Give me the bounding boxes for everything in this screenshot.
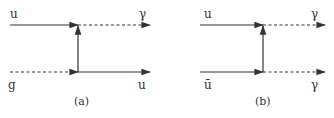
label-bottom-right-a: u [138, 79, 146, 91]
label-top-right-b: γ [311, 8, 318, 20]
diagram-b [200, 25, 325, 72]
caption-b: (b) [255, 96, 271, 107]
label-bottom-left-b: ū [204, 79, 212, 91]
label-top-right-a: γ [139, 8, 146, 20]
label-bottom-right-b: γ [311, 79, 318, 91]
label-top-left-b: u [204, 8, 212, 20]
feynman-diagrams [0, 0, 334, 118]
caption-a: (a) [74, 96, 89, 107]
label-top-left-a: u [10, 8, 18, 20]
diagram-a [10, 25, 150, 72]
label-bottom-left-a: g [8, 79, 16, 91]
